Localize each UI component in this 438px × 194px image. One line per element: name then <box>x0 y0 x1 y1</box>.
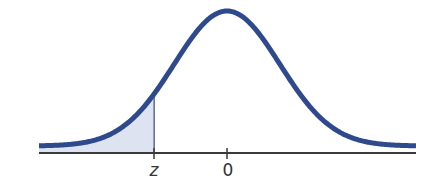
z-tick-label: z <box>150 162 159 179</box>
normal-curve-chart <box>0 0 438 194</box>
normal-curve <box>39 11 416 146</box>
zero-tick-label: 0 <box>223 162 234 179</box>
